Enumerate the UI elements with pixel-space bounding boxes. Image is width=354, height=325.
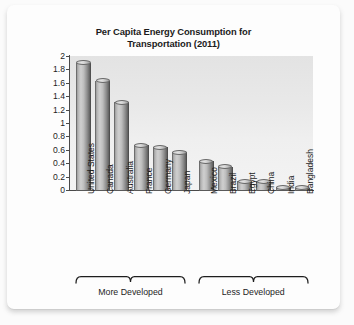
chart-title-line-2: Transportation (2011)	[7, 38, 340, 50]
group-label: More Developed	[75, 287, 186, 297]
x-axis-tick-label: France	[144, 168, 154, 194]
chart-title-line-1: Per Capita Energy Consumption for	[7, 26, 340, 38]
y-axis-tick-mark	[66, 56, 70, 57]
bar-cap	[76, 60, 90, 65]
bar-cap	[96, 78, 110, 83]
bar-cap	[218, 164, 232, 169]
group-bracket	[198, 275, 309, 284]
chart-title: Per Capita Energy Consumption for Transp…	[7, 26, 340, 49]
bar-cap	[153, 145, 167, 150]
y-axis-tick-label: 1.4	[53, 91, 65, 101]
y-axis-tick-mark	[66, 163, 70, 164]
y-axis-tick-mark	[66, 136, 70, 137]
x-axis-tick-label: China	[266, 172, 276, 194]
y-axis-tick-mark	[66, 150, 70, 151]
x-axis-tick-label: Brazil	[228, 173, 238, 194]
x-axis-tick-label: Australia	[125, 161, 135, 194]
y-axis-tick-mark	[66, 96, 70, 97]
y-axis-tick-label: 0.2	[53, 172, 65, 182]
y-axis-tick-label: 1.6	[53, 78, 65, 88]
x-axis-tick-label: India	[286, 176, 296, 194]
x-axis-tick-label: Mexico	[209, 167, 219, 194]
x-axis-tick-label: Bangladesh	[305, 149, 315, 194]
y-axis-tick-mark	[66, 83, 70, 84]
y-axis-tick-mark	[66, 177, 70, 178]
bar-cap	[115, 100, 129, 105]
y-axis-tick-mark	[66, 69, 70, 70]
bar-cap	[199, 159, 213, 164]
y-axis-tick-label: 1.2	[53, 105, 65, 115]
x-axis-tick-label: Canada	[105, 164, 115, 194]
y-axis-tick-label: 0	[60, 185, 65, 195]
group-bracket	[75, 275, 186, 284]
y-axis-tick-label: 0.8	[53, 131, 65, 141]
bar-cap	[134, 143, 148, 148]
x-axis-tick-label: Egypt	[247, 172, 257, 194]
y-axis-tick-label: 0.4	[53, 158, 65, 168]
y-axis-tick-label: 1.8	[53, 64, 65, 74]
x-axis-tick-label: United States	[86, 143, 96, 194]
y-axis-tick-label: 1	[60, 118, 65, 128]
bar-cap	[172, 150, 186, 155]
y-axis-tick-mark	[66, 123, 70, 124]
y-axis-tick-label: 2	[60, 51, 65, 61]
chart-card: Per Capita Energy Consumption for Transp…	[7, 5, 340, 309]
x-axis-tick-label: Japan	[182, 171, 192, 194]
y-axis-tick-mark	[66, 110, 70, 111]
y-axis-tick-label: 0.6	[53, 145, 65, 155]
x-axis-tick-label: Germany	[163, 159, 173, 194]
group-label: Less Developed	[198, 287, 309, 297]
y-axis-tick-labels: 21.81.61.41.210.80.60.40.20	[35, 55, 65, 191]
